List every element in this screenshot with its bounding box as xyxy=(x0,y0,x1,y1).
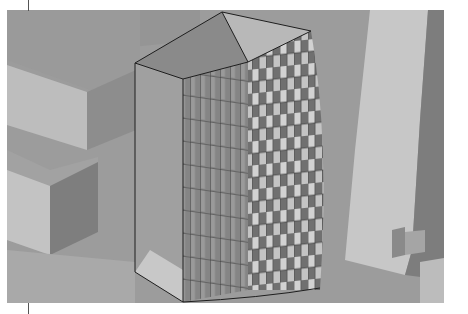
crop-mark-top xyxy=(28,0,29,11)
rendering-figure xyxy=(0,0,468,314)
scene-svg xyxy=(0,0,468,314)
tower-front-facade xyxy=(183,62,248,302)
crop-mark-bottom xyxy=(28,303,29,314)
tower-curved-facade xyxy=(248,31,323,290)
